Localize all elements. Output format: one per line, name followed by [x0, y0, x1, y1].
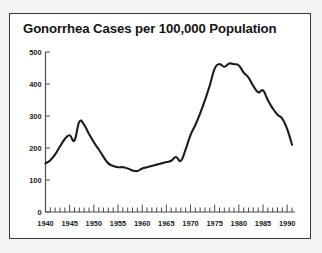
chart-panel: Gonorrhea Cases per 100,000 Population 0…: [9, 13, 311, 239]
y-tick-label: 400: [29, 80, 41, 89]
x-tick-label: 1945: [61, 219, 77, 228]
x-tick-label: 1980: [231, 219, 247, 228]
x-tick-label: 1985: [255, 219, 271, 228]
chart-figure: Gonorrhea Cases per 100,000 Population 0…: [0, 0, 322, 253]
y-tick-label: 100: [29, 176, 41, 185]
x-tick-label: 1970: [182, 219, 198, 228]
y-tick-label: 200: [29, 144, 41, 153]
x-tick-label: 1965: [158, 219, 174, 228]
y-tick-label: 300: [29, 112, 41, 121]
x-tick-label: 1990: [279, 219, 295, 228]
x-tick-label: 1960: [134, 219, 150, 228]
chart-plot-area: 0100200300400500194019451950195519601965…: [10, 14, 312, 240]
x-tick-label: 1940: [37, 219, 53, 228]
y-tick-label: 500: [29, 48, 41, 57]
data-series-line: [46, 63, 293, 171]
x-tick-label: 1975: [206, 219, 222, 228]
x-tick-label: 1950: [86, 219, 102, 228]
x-tick-label: 1955: [110, 219, 126, 228]
y-tick-label: 0: [37, 208, 41, 217]
